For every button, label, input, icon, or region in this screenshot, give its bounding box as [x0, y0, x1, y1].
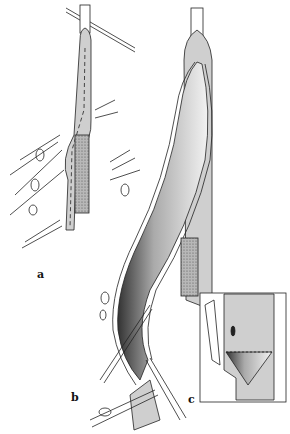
panel-c-inset: [200, 293, 286, 402]
panel-c-label: c: [188, 393, 195, 406]
panel-b-drawing: [90, 8, 212, 430]
panel-a-label: a: [37, 268, 44, 281]
panel-b-label: b: [71, 391, 79, 404]
illustration-canvas: a b c: [0, 0, 290, 434]
vessel-illustration: [0, 0, 290, 434]
panel-a-drawing: [10, 5, 135, 248]
